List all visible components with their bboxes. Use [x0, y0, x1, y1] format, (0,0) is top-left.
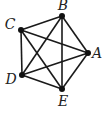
edge-a-b — [62, 16, 88, 53]
edge-c-d — [21, 30, 22, 75]
vertex-a — [85, 50, 91, 56]
edge-d-e — [22, 75, 62, 89]
vertex-label-b: B — [57, 0, 68, 13]
edge-b-d — [22, 16, 62, 75]
vertex-label-d: D — [4, 71, 16, 87]
edge-a-e — [62, 53, 88, 89]
edge-b-c — [21, 16, 62, 30]
vertex-label-e: E — [57, 93, 68, 109]
vertex-b — [59, 13, 65, 19]
vertex-c — [18, 27, 24, 33]
edge-a-d — [22, 53, 88, 75]
vertex-label-a: A — [90, 45, 102, 61]
complete-graph-k5: ABCDE — [0, 0, 110, 114]
vertex-e — [59, 86, 65, 92]
nodes-group — [18, 13, 91, 92]
edges-group — [21, 16, 88, 89]
edge-c-e — [21, 30, 62, 89]
vertex-label-c: C — [5, 16, 16, 32]
vertex-d — [19, 72, 25, 78]
edge-a-c — [21, 30, 88, 53]
